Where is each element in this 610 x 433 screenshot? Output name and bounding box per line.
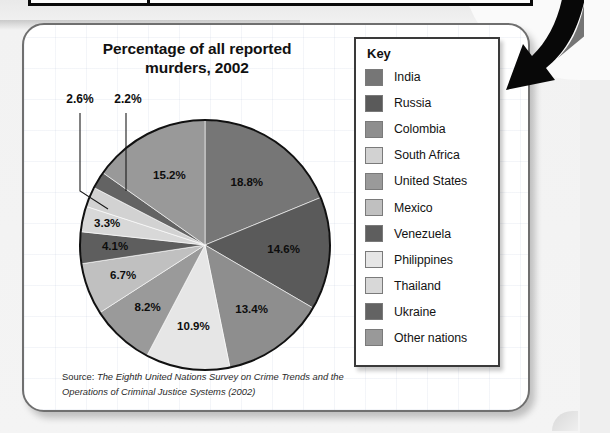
pie-slice-value-russia: 14.6% — [267, 243, 300, 255]
legend-swatch-icon — [365, 173, 383, 190]
curved-down-left-arrow-icon — [454, 0, 584, 116]
legend-item-label: Mexico — [394, 201, 433, 215]
pie-slice-value-venezuela: 4.1% — [102, 240, 128, 252]
pie-slice-value-mexico: 6.7% — [110, 269, 136, 281]
legend-swatch-icon — [365, 121, 383, 138]
legend-item-label: Thailand — [394, 279, 441, 293]
pie-slice-value-thailand: 3.3% — [94, 217, 120, 229]
legend-item-colombia[interactable]: Colombia — [365, 116, 498, 142]
pie-slice-value-united-states: 8.2% — [134, 301, 160, 313]
legend-item-label: Other nations — [394, 331, 467, 345]
pie-chart-svg: 18.8%14.6%13.4%10.9%8.2%6.7%4.1%3.3%15.2… — [50, 85, 360, 375]
legend-swatch-icon — [365, 303, 383, 320]
legend-item-south-africa[interactable]: South Africa — [365, 142, 498, 168]
pie-slice-value-philippines: 10.9% — [177, 320, 210, 332]
pie-chart: 18.8%14.6%13.4%10.9%8.2%6.7%4.1%3.3%15.2… — [50, 85, 360, 375]
legend-item-label: South Africa — [394, 148, 460, 162]
legend-item-label: Philippines — [394, 253, 453, 267]
legend-swatch-icon — [365, 225, 383, 242]
source-label: Source: — [62, 371, 94, 382]
chart-title-line-1: Percentage of all reported — [60, 40, 334, 59]
page-title: Percentage of all reported murders, 2002 — [60, 40, 334, 78]
legend-item-united-states[interactable]: United States — [365, 168, 498, 194]
legend-swatch-icon — [365, 329, 383, 346]
legend-swatch-icon — [365, 95, 383, 112]
chart-title-line-2: murders, 2002 — [60, 59, 334, 78]
legend-swatch-icon — [365, 277, 383, 294]
legend-swatch-icon — [365, 147, 383, 164]
legend-item-label: Colombia — [394, 122, 446, 136]
legend-item-ukraine[interactable]: Ukraine — [365, 299, 498, 325]
legend-swatch-icon — [365, 199, 383, 216]
legend-swatch-icon — [365, 251, 383, 268]
legend-item-other-nations[interactable]: Other nations — [365, 325, 498, 351]
source-citation: The Eighth United Nations Survey on Crim… — [62, 371, 344, 397]
top-partial-box-divider — [147, 0, 150, 6]
legend-item-thailand[interactable]: Thailand — [365, 273, 498, 299]
pie-slice-value-other-nations: 15.2% — [153, 169, 186, 181]
legend-item-mexico[interactable]: Mexico — [365, 194, 498, 220]
legend-item-label: United States — [394, 174, 467, 188]
callout-value-ukraine: 2.2% — [114, 92, 142, 106]
pie-slice-value-india: 18.8% — [230, 176, 263, 188]
source-note: Source: The Eighth United Nations Survey… — [62, 370, 362, 399]
legend-item-label: Russia — [394, 96, 431, 110]
legend-item-label: Ukraine — [394, 305, 436, 319]
legend-item-label: India — [394, 70, 420, 84]
legend-item-venezuela[interactable]: Venezuela — [365, 221, 498, 247]
legend-item-philippines[interactable]: Philippines — [365, 247, 498, 273]
legend-swatch-icon — [365, 69, 383, 86]
legend-item-label: Venezuela — [394, 227, 451, 241]
callout-value-south-africa: 2.6% — [66, 92, 94, 106]
pie-slice-value-colombia: 13.4% — [235, 303, 268, 315]
